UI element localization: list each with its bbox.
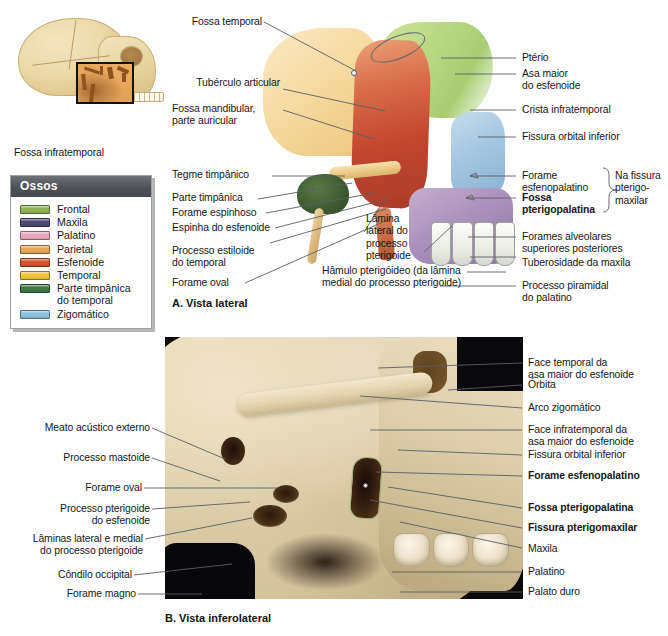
label-espinha-esfenoide: Espinha do esfenoide [172, 222, 270, 234]
legend-swatch-parte-timpanica [20, 284, 50, 293]
bone-color-legend: Ossos Frontal Maxila Palatino Parietal E… [10, 175, 152, 329]
label-fossa-temporal: Fossa temporal [106, 16, 262, 28]
legend-swatch-palatino [20, 231, 50, 240]
label-palato-duro: Palato duro [528, 586, 580, 598]
legend-item-esfenoide[interactable]: Esfenoide [11, 256, 151, 269]
label-tuberosidade-maxila: Tuberosidade da maxila [522, 257, 630, 269]
legend-item-parte-timpanica[interactable]: Parte timpânica do temporal [11, 282, 151, 307]
legend-swatch-temporal [20, 271, 50, 280]
label-forame-magno: Forame magno [0, 588, 136, 600]
bone-zigomatico [451, 112, 505, 198]
legend-item-zigomatico[interactable]: Zigomático [11, 308, 151, 321]
bone-esfenoide [350, 39, 432, 210]
orientation-caption: Fossa infratemporal [14, 147, 104, 159]
label-lamina-lateral-pterigoide: Lâmina lateral do processo pterigoide [366, 213, 411, 263]
label-condilo-occipital: Côndilo occipital [0, 569, 132, 581]
legend-label-temporal: Temporal [57, 269, 101, 281]
label-processo-estiloide: Processo estiloide do temporal [172, 245, 255, 270]
label-meato-acustico-externo: Meato acústico externo [0, 422, 150, 434]
orientation-skull-diagram [18, 16, 170, 112]
photo-foramen-ovale [273, 485, 299, 503]
legend-swatch-zigomatico [20, 310, 50, 319]
panel-a-teeth [431, 222, 515, 266]
panel-b-caption: B. Vista inferolateral [165, 612, 271, 624]
bone-processo-estiloide [307, 208, 325, 265]
label-na-fissura-pterigomaxilar: Na fissura pterigo- maxilar [615, 170, 661, 207]
label-forame-espinhoso: Forame espinhoso [172, 207, 256, 219]
label-forame-oval-b: Forame oval [0, 482, 142, 494]
label-orbita: Órbita [528, 379, 556, 391]
label-fissura-orbital-inferior-b: Fissura orbital inferior [528, 449, 626, 461]
label-face-infratemporal-asa-maior: Face infratemporal da asa maior do esfen… [528, 424, 634, 449]
label-crista-infratemporal: Crista infratemporal [522, 104, 611, 116]
legend-label-frontal: Frontal [57, 203, 90, 215]
label-forame-oval-a: Forame oval [172, 277, 229, 289]
legend-item-parietal[interactable]: Parietal [11, 243, 151, 256]
label-laminas-lateral-medial: Lâminas lateral e medial do processo pte… [0, 533, 143, 558]
panel-b-photograph [165, 337, 523, 599]
label-tuberculo-articular: Tubérculo articular [104, 77, 280, 89]
legend-swatch-maxila [20, 218, 50, 227]
legend-item-palatino[interactable]: Palatino [11, 229, 151, 242]
legend-item-maxila[interactable]: Maxila [11, 216, 151, 229]
legend-header: Ossos [11, 176, 151, 197]
label-maxila-b: Maxila [528, 543, 557, 555]
photo-pterygopalatine-fossa [349, 456, 383, 520]
label-forame-esfenopalatino-b: Forame esfenopalatino [528, 470, 640, 482]
label-fossa-pterigopalatina-a: Fossa pterigopalatina [522, 192, 595, 217]
legend-item-frontal[interactable]: Frontal [11, 203, 151, 216]
legend-swatch-esfenoide [20, 258, 50, 267]
legend-label-parietal: Parietal [57, 243, 93, 255]
bone-parte-timpanica [297, 174, 349, 214]
legend-body: Frontal Maxila Palatino Parietal Esfenoi… [11, 197, 151, 328]
photo-background-top-right [457, 337, 523, 391]
label-hamulo-pterigoideo: Hâmulo pterigóideo (da lâmina medial do … [322, 265, 461, 290]
label-fossa-mandibular: Fossa mandibular, parte auricular [172, 103, 255, 128]
label-pterio: Ptério [522, 52, 549, 64]
legend-swatch-frontal [20, 205, 50, 214]
photo-deep-shadow [265, 533, 385, 591]
label-processo-pterigoide-b: Processo pterigoide do esfenoide [0, 503, 150, 528]
label-tegme-timpanico: Tegme timpânico [172, 169, 249, 181]
photo-sphenopalatine-foramen-dot [363, 483, 368, 488]
label-parte-timpanica: Parte timpânica [172, 192, 243, 204]
legend-swatch-parietal [20, 245, 50, 254]
label-fossa-pterigopalatina-b: Fossa pterigopalatina [528, 502, 633, 514]
photo-pterygoid-process [253, 505, 287, 527]
legend-label-maxila: Maxila [57, 216, 88, 228]
label-fissura-pterigomaxilar: Fissura pterigomaxilar [528, 522, 637, 534]
legend-label-palatino: Palatino [57, 229, 95, 241]
panel-a-caption: A. Vista lateral [172, 297, 248, 309]
label-fissura-orbital-inferior-a: Fissura orbital inferior [522, 131, 620, 143]
label-processo-mastoide: Processo mastoide [0, 452, 150, 464]
legend-label-esfenoide: Esfenoide [57, 256, 104, 268]
label-processo-piramidal-palatino: Processo piramidal do palatino [522, 280, 609, 305]
figure-page: Fossa infratemporal Ossos Frontal Maxila… [0, 0, 668, 636]
legend-label-zigomatico: Zigomático [57, 308, 109, 320]
label-palatino-b: Palatino [528, 566, 565, 578]
label-asa-maior-esfenoide-a: Asa maior do esfenoide [522, 68, 580, 93]
label-arco-zigomatico: Arco zigomático [528, 402, 600, 414]
photo-background-bottom-left [165, 543, 255, 599]
fossa-temporal-marker-dot [351, 70, 357, 76]
legend-item-temporal[interactable]: Temporal [11, 269, 151, 282]
label-forames-alveolares: Forames alveolares superiores posteriore… [522, 231, 623, 256]
photo-external-acoustic-meatus [221, 437, 245, 465]
photo-molar-teeth [393, 533, 509, 575]
legend-label-parte-timpanica: Parte timpânica do temporal [57, 282, 145, 306]
